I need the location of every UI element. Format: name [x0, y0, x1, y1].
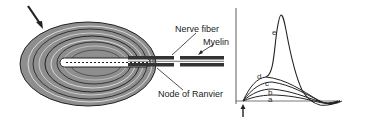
pointer-arrow-icon: [28, 6, 43, 29]
curve-a: [243, 95, 338, 103]
nerve-fiber-figure: Nerve fiber Myelin Node of Ranvier a b c…: [0, 0, 367, 125]
label-node-of-ranvier: Node of Ranvier: [158, 89, 223, 99]
curve-label-e: e: [272, 28, 276, 37]
response-graph: [236, 8, 342, 117]
label-myelin: Myelin: [203, 37, 229, 47]
curve-label-c: c: [265, 79, 269, 88]
stimulus-arrow-icon: [241, 104, 246, 117]
curve-d: [243, 77, 342, 104]
label-nerve-fiber: Nerve fiber: [175, 24, 219, 34]
curve-label-b: b: [268, 88, 272, 97]
nerve-fiber-axon: [128, 56, 224, 67]
curve-e: [266, 15, 340, 105]
curve-label-d: d: [257, 72, 261, 81]
node-of-ranvier-leader: [157, 68, 183, 90]
nerve-fiber-leader: [172, 33, 196, 55]
figure-drawing: [0, 0, 367, 125]
myelin-leader-arrowhead: [198, 50, 203, 55]
